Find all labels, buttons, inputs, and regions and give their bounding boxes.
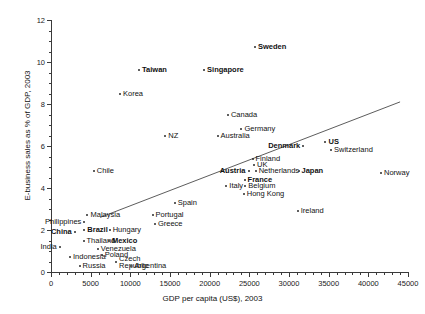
data-point[interactable] bbox=[248, 170, 250, 172]
trend-line bbox=[0, 0, 425, 314]
data-point[interactable] bbox=[109, 229, 111, 231]
data-point[interactable] bbox=[83, 240, 85, 242]
data-point-label: Russia bbox=[83, 262, 106, 270]
data-point-label: Austria bbox=[220, 167, 246, 175]
data-point-label: Sweden bbox=[258, 43, 286, 51]
data-point[interactable] bbox=[164, 135, 166, 137]
data-point-label: Switzerland bbox=[334, 146, 373, 154]
data-point-label: Singapore bbox=[207, 66, 244, 74]
data-point[interactable] bbox=[244, 179, 246, 181]
scatter-chart: 0500010000150002000025000300003500040000… bbox=[0, 0, 425, 314]
data-point-label: Italy bbox=[229, 182, 243, 190]
x-axis-title: GDP per capita (US$), 2003 bbox=[0, 294, 425, 303]
data-point-label: India bbox=[40, 243, 56, 251]
y-axis-title: E-business sales as % of GDP, 2003 bbox=[23, 46, 32, 226]
data-point[interactable] bbox=[217, 135, 219, 137]
data-point[interactable] bbox=[130, 265, 132, 267]
data-point-label: Malaysia bbox=[90, 211, 120, 219]
data-point[interactable] bbox=[154, 223, 156, 225]
data-point-label: Greece bbox=[158, 220, 183, 228]
data-point-label: Hungary bbox=[113, 226, 141, 234]
data-point-label: NZ bbox=[168, 132, 178, 140]
data-point[interactable] bbox=[119, 93, 121, 95]
data-point-label: Hong Kong bbox=[247, 190, 285, 198]
data-point-label: Philippines bbox=[45, 218, 81, 226]
data-point[interactable] bbox=[227, 114, 229, 116]
data-point-label: Japan bbox=[302, 167, 324, 175]
data-point-label: Australia bbox=[221, 132, 250, 140]
data-point[interactable] bbox=[79, 265, 81, 267]
data-point[interactable] bbox=[108, 240, 110, 242]
data-point[interactable] bbox=[115, 261, 117, 263]
data-point[interactable] bbox=[59, 246, 61, 248]
data-point-label: Taiwan bbox=[142, 66, 167, 74]
data-point[interactable] bbox=[297, 210, 299, 212]
data-point-label: Chile bbox=[97, 167, 114, 175]
data-point[interactable] bbox=[74, 231, 76, 233]
data-point[interactable] bbox=[253, 164, 255, 166]
data-point-label: Canada bbox=[231, 111, 257, 119]
data-point[interactable] bbox=[97, 248, 99, 250]
data-point-label: Argentina bbox=[134, 262, 166, 270]
data-point-label: China bbox=[51, 228, 72, 236]
data-point-label: Denmark bbox=[268, 142, 300, 150]
data-point-label: Korea bbox=[123, 90, 143, 98]
data-point[interactable] bbox=[252, 158, 254, 160]
data-point[interactable] bbox=[298, 170, 300, 172]
data-point-label: Brazil bbox=[87, 226, 107, 234]
data-point-label: Spain bbox=[178, 199, 197, 207]
data-point-label: Ireland bbox=[301, 207, 324, 215]
data-point[interactable] bbox=[255, 170, 257, 172]
data-point-label: Norway bbox=[384, 169, 409, 177]
data-point[interactable] bbox=[174, 202, 176, 204]
